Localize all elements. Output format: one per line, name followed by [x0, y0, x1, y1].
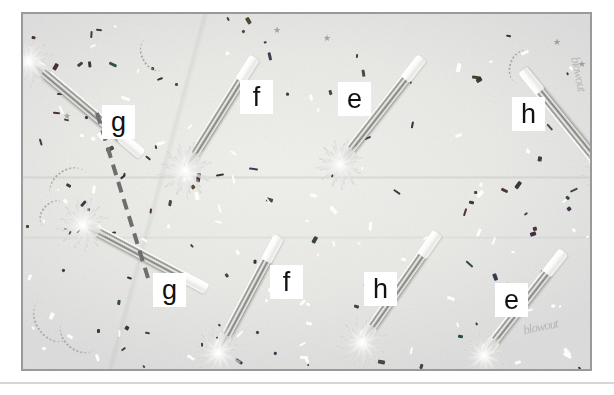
confetti-bit	[369, 222, 372, 231]
confetti-bit	[253, 259, 256, 263]
figure-canvas: ★★★★★blowout blowout gfehgfhe	[0, 0, 614, 395]
label-f-bottom: f	[270, 265, 303, 299]
blower-paper-fringe	[318, 141, 362, 185]
label-f-top: f	[240, 80, 273, 114]
blower-paper-fringe	[160, 145, 210, 195]
blower-paper-fringe	[59, 199, 107, 247]
label-g-top: g	[102, 105, 135, 139]
star-confetti-icon: ★	[273, 26, 281, 35]
confetti-bit	[578, 366, 581, 369]
confetti-bit	[356, 54, 358, 58]
confetti-bit	[88, 61, 91, 67]
confetti-bit	[317, 108, 319, 112]
blower-paper-fringe	[339, 318, 385, 364]
blower-paper-fringe	[195, 329, 241, 371]
star-confetti-icon: ★	[63, 112, 71, 121]
label-g-bottom: g	[153, 273, 186, 307]
star-confetti-icon: ★	[323, 34, 331, 43]
annotated-photograph: ★★★★★blowout blowout gfehgfhe	[21, 12, 592, 371]
confetti-bit	[469, 201, 475, 205]
star-confetti-icon: ★	[553, 38, 561, 47]
label-h-top: h	[512, 97, 545, 131]
confetti-bit	[526, 150, 531, 153]
confetti-bit	[458, 335, 464, 339]
confetti-bit	[305, 219, 309, 222]
confetti-bit	[118, 331, 120, 338]
bottom-separator-rule	[0, 382, 614, 384]
label-e-top: e	[338, 82, 371, 116]
label-h-bottom: h	[364, 272, 397, 306]
confetti-bit	[80, 134, 84, 138]
blower-paper-fringe	[463, 333, 505, 371]
label-e-bottom: e	[495, 283, 528, 317]
confetti-bit	[26, 225, 29, 228]
